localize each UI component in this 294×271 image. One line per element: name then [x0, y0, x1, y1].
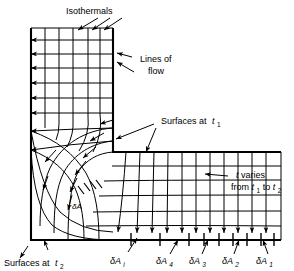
label-lines-of-flow-line2: flow	[148, 66, 165, 76]
label-t-varies-line2: from t 1 to t 2	[231, 182, 282, 195]
label-t-varies-text: varies	[241, 170, 266, 180]
label-area-dA1: δA 1	[256, 256, 273, 268]
flow-net-diagram: Isothermals Lines of flow Surfaces at t …	[0, 0, 294, 271]
leader-dA4	[170, 240, 178, 254]
label-isothermals: Isothermals	[66, 6, 113, 16]
figure-canvas: Isothermals Lines of flow Surfaces at t …	[0, 0, 294, 271]
label-dAi-symbol: δA	[110, 256, 121, 266]
label-area-dAi: δA i	[110, 256, 125, 268]
label-delta-a-corner: δA	[72, 202, 82, 211]
label-dA1-symbol: δA	[256, 256, 267, 266]
label-surfaces-at-t1-subscript: 1	[217, 121, 221, 128]
label-dA4-symbol: δA	[156, 256, 167, 266]
leader-dA3	[202, 240, 208, 254]
label-dA2-sub: 2	[234, 261, 239, 268]
label-dAi-sub: i	[123, 261, 125, 268]
leader-surfaces-t1-1	[116, 124, 154, 139]
label-surfaces-at-t1-symbol: t	[212, 116, 215, 126]
leader-surfaces-t1-2	[146, 128, 156, 152]
label-dA3-sub: 3	[202, 261, 206, 268]
label-dA4-sub: 4	[169, 261, 173, 268]
leader-surfaces-t2-2	[44, 240, 48, 250]
label-area-dA3: δA 3	[189, 256, 206, 268]
label-from-text: from	[231, 182, 252, 192]
label-t2-symbol: t	[273, 182, 276, 192]
label-surfaces-at-t2: Surfaces at t 2	[4, 258, 64, 270]
label-area-dA2: δA 2	[222, 256, 239, 268]
label-t1-symbol: t	[252, 182, 255, 192]
horizontal-arm-flow-lines	[118, 152, 266, 233]
label-t-varies-symbol: t	[236, 170, 239, 180]
leader-t-varies	[205, 174, 228, 176]
label-lines-of-flow-line1: Lines of	[140, 54, 172, 64]
label-t2-sub: 2	[278, 187, 282, 194]
label-surfaces-at-t2-symbol: t	[55, 258, 58, 268]
leader-dA1	[263, 240, 268, 254]
label-t-varies-line1: t varies	[236, 170, 266, 180]
label-surfaces-at-t1-text: Surfaces at	[161, 116, 207, 126]
label-t1-sub: 1	[257, 187, 261, 194]
label-dA3-symbol: δA	[189, 256, 200, 266]
label-delta-a-corner-symbol: δA	[72, 202, 82, 211]
label-area-dA4: δA 4	[156, 256, 173, 268]
label-to-text: to	[263, 182, 273, 192]
label-dA2-symbol: δA	[222, 256, 233, 266]
leader-dA2	[234, 240, 239, 254]
label-dA1-sub: 1	[269, 261, 273, 268]
label-surfaces-at-t2-subscript: 2	[60, 263, 64, 270]
leader-surfaces-t2-1	[20, 246, 28, 258]
corner-isothermals	[31, 106, 111, 240]
label-surfaces-at-t2-text: Surfaces at	[4, 258, 50, 268]
leader-lines-of-flow-1	[117, 53, 132, 57]
label-surfaces-at-t1: Surfaces at t 1	[161, 116, 221, 128]
vertical-arm-isothermals	[45, 28, 101, 152]
inner-boundary-surface-t1	[113, 28, 281, 152]
leader-lines-of-flow-2	[117, 62, 134, 72]
